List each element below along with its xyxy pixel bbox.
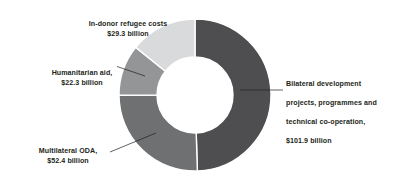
slice-label-line-1: Bilateral development [286, 80, 361, 88]
slice-label-multilateral-oda: Multilateral ODA, $52.4 billion [18, 138, 118, 175]
slice-value-text: $52.4 billion [18, 157, 118, 166]
slice-label-humanitarian-aid: Humanitarian aid, $22.3 billion [36, 60, 128, 97]
slice-label-text: Humanitarian aid, [52, 69, 113, 77]
donut-chart-figure: In-donor refugee costs $29.3 billion Hum… [0, 0, 400, 187]
slice-label-in-donor-refugee-costs: In-donor refugee costs $29.3 billion [80, 11, 176, 48]
slice-label-text: Multilateral ODA, [39, 147, 97, 155]
slice-label-line-2: projects, programmes and [286, 99, 377, 107]
donut-slice-multilateral-oda[interactable] [119, 95, 197, 171]
slice-label-bilateral-development: Bilateral development projects, programm… [286, 71, 394, 146]
slice-label-text: In-donor refugee costs [89, 20, 167, 28]
slice-label-line-3: technical co-operation, [286, 118, 365, 126]
slice-value-text: $22.3 billion [36, 79, 128, 88]
slice-value-text: $101.9 billion [286, 137, 332, 145]
slice-value-text: $29.3 billion [80, 30, 176, 39]
donut-slice-bilateral-development-projects-programmes-and-technical-co-operation[interactable] [195, 19, 271, 171]
